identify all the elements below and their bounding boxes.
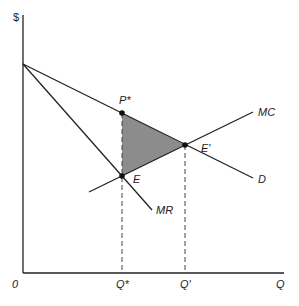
y-axis-label: $ [13,11,19,23]
monopoly-diagram: $ 0 Q P* E E' MC D MR Q* Q' [0,0,299,306]
p-star-label: P* [119,94,131,106]
e-prime-point [182,142,188,148]
deadweight-loss-triangle [122,113,185,176]
e-prime-label: E' [201,142,211,154]
mc-label: MC [258,106,275,118]
q-prime-label: Q' [180,278,192,290]
d-label: D [258,173,266,185]
origin-label: 0 [12,278,19,290]
x-axis-label: Q [276,278,285,290]
mc-curve [89,112,253,192]
p-star-point [119,110,125,116]
e-label: E [133,173,141,185]
q-star-label: Q* [116,278,130,290]
mr-label: MR [156,204,173,216]
e-point [119,173,125,179]
